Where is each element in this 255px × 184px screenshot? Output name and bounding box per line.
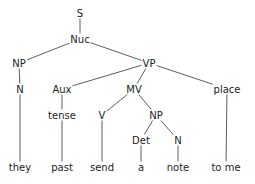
node-tome: to me	[210, 162, 241, 173]
node-place: place	[213, 84, 242, 95]
node-Aux: Aux	[51, 84, 72, 95]
node-NP2: NP	[148, 110, 164, 121]
edge-place-tome	[226, 89, 227, 167]
node-N1: N	[15, 84, 24, 95]
node-N2: N	[173, 135, 182, 146]
node-S: S	[76, 8, 84, 19]
node-they: they	[8, 162, 32, 173]
node-a: a	[137, 162, 145, 173]
node-MV: MV	[125, 84, 142, 95]
node-V: V	[98, 110, 107, 121]
node-Nuc: Nuc	[69, 34, 90, 45]
node-Det: Det	[131, 135, 151, 146]
node-past: past	[50, 162, 74, 173]
node-NP1: NP	[11, 58, 27, 69]
node-VP: VP	[142, 58, 157, 69]
node-note: note	[166, 162, 191, 173]
syntax-tree: SNucNPVPNAuxMVplacetenseVNPDetNtheypasts…	[0, 0, 255, 184]
node-send: send	[89, 162, 115, 173]
node-tense: tense	[47, 110, 77, 121]
